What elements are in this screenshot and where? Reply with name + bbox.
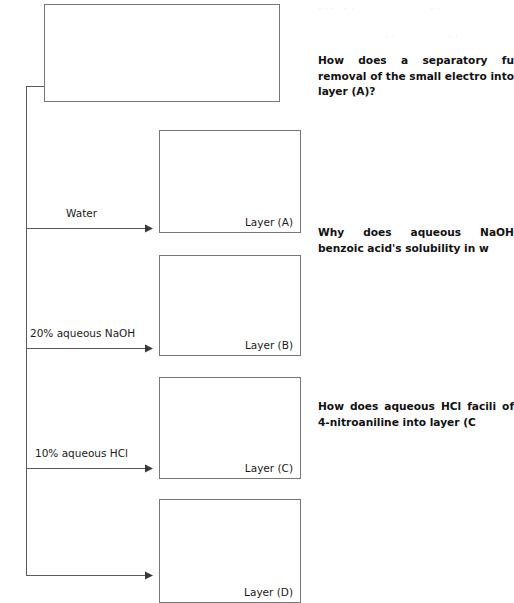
- layer-c-label: Layer (C): [245, 462, 293, 475]
- scan-artifact-ghost-3: ··: [385, 30, 398, 43]
- reagent-label-water: Water: [66, 207, 97, 220]
- question-text-3: How does aqueous HCl facili of 4-nitroan…: [318, 399, 514, 430]
- reagent-label-hcl: 10% aqueous HCl: [35, 447, 128, 460]
- layer-b-box: Layer (B): [159, 255, 301, 356]
- layer-a-box: Layer (A): [159, 130, 301, 233]
- layer-d-label: Layer (D): [244, 586, 293, 599]
- layer-b-label: Layer (B): [245, 339, 293, 352]
- starting-mixture-box: [44, 4, 280, 102]
- arrow-head-c: [145, 465, 153, 473]
- arrow-head-b: [145, 345, 153, 353]
- arrow-head-a: [145, 225, 153, 233]
- arrow-head-d: [145, 572, 153, 580]
- reagent-label-naoh: 20% aqueous NaOH: [30, 327, 135, 340]
- scan-artifact-ghost-1: ··· ··: [318, 2, 357, 15]
- layer-d-box: Layer (D): [159, 499, 301, 603]
- question-text-2: Why does aqueous NaOH benzoic acid's sol…: [318, 225, 514, 256]
- scan-artifact-ghost-2: ··: [430, 2, 443, 15]
- question-text-1: How does a separatory fu removal of the …: [318, 53, 514, 100]
- layer-a-label: Layer (A): [245, 216, 293, 229]
- layer-c-box: Layer (C): [159, 377, 301, 479]
- scan-artifact-ghost-4: ··: [448, 30, 461, 43]
